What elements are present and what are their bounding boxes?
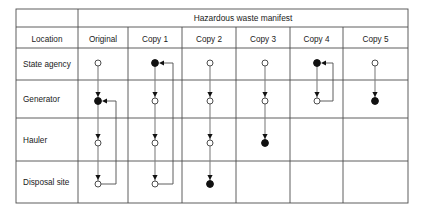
chain-original xyxy=(95,60,116,187)
chain-copy-3 xyxy=(262,60,269,146)
row-label-2: Hauler xyxy=(23,136,47,145)
node-open-3 xyxy=(95,181,101,187)
row-label-0: State agency xyxy=(23,60,72,69)
node-open-2 xyxy=(95,140,101,146)
header-location: Location xyxy=(32,35,63,44)
arrow-down-1 xyxy=(152,134,157,139)
arrow-down-0 xyxy=(372,92,377,97)
arrow-left-return xyxy=(159,60,164,65)
arrow-down-0 xyxy=(262,92,267,97)
node-filled-0 xyxy=(314,60,321,67)
arrow-down-0 xyxy=(95,92,100,97)
manifest-table-svg: LocationHazardous waste manifestOriginal… xyxy=(0,0,424,213)
chain-copy-1 xyxy=(152,60,173,187)
arrow-down-1 xyxy=(207,134,212,139)
header-column-2: Copy 2 xyxy=(196,35,222,44)
arrow-down-0 xyxy=(152,92,157,97)
node-open-0 xyxy=(95,60,101,66)
arrow-down-2 xyxy=(95,175,100,180)
arrow-down-2 xyxy=(152,175,157,180)
row-label-1: Generator xyxy=(23,95,60,104)
node-open-1 xyxy=(152,98,158,104)
node-open-1 xyxy=(314,98,320,104)
arrow-down-2 xyxy=(207,175,212,180)
node-open-2 xyxy=(207,140,213,146)
return-loop-path xyxy=(101,101,116,184)
node-open-3 xyxy=(152,181,158,187)
chain-copy-2 xyxy=(207,60,214,187)
node-filled-2 xyxy=(262,140,269,147)
return-loop-path xyxy=(158,63,173,184)
arrow-down-0 xyxy=(314,92,319,97)
node-open-0 xyxy=(372,60,378,66)
header-column-0: Original xyxy=(89,35,117,44)
arrow-down-1 xyxy=(95,134,100,139)
flow-chains xyxy=(95,60,379,188)
chain-copy-5 xyxy=(372,60,379,104)
node-open-1 xyxy=(207,98,213,104)
node-open-2 xyxy=(152,140,158,146)
header-column-5: Copy 5 xyxy=(363,35,389,44)
arrow-left-return xyxy=(321,60,326,65)
return-loop-path xyxy=(320,63,333,101)
arrow-left-return xyxy=(102,98,107,103)
table-title: Hazardous waste manifest xyxy=(194,13,293,23)
node-filled-0 xyxy=(152,60,159,67)
node-open-1 xyxy=(262,98,268,104)
header-column-4: Copy 4 xyxy=(304,35,330,44)
row-label-3: Disposal site xyxy=(23,178,70,187)
arrow-down-0 xyxy=(207,92,212,97)
manifest-diagram-root: LocationHazardous waste manifestOriginal… xyxy=(0,0,424,213)
arrow-down-1 xyxy=(262,134,267,139)
node-open-0 xyxy=(262,60,268,66)
header-column-1: Copy 1 xyxy=(142,35,168,44)
chain-copy-4 xyxy=(314,60,333,104)
node-filled-1 xyxy=(372,98,379,105)
header-column-3: Copy 3 xyxy=(250,35,276,44)
node-filled-3 xyxy=(207,181,214,188)
node-open-0 xyxy=(207,60,213,66)
node-filled-1 xyxy=(95,98,102,105)
